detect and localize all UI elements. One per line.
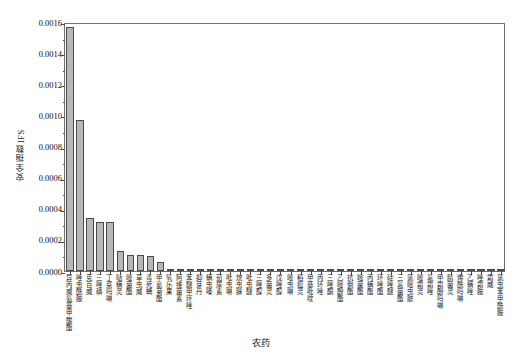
y-axis-tick — [61, 117, 65, 118]
y-axis-tick — [61, 86, 65, 87]
x-axis-tick-label: 环唑酯 — [375, 275, 385, 296]
y-axis-tick — [61, 24, 65, 25]
bar — [86, 218, 93, 271]
x-axis-tick-label: 毒死蜱 — [144, 275, 154, 296]
bar — [137, 255, 144, 271]
y-axis-tick — [61, 55, 65, 56]
x-axis-tick-label: 嘧菌酯 — [124, 275, 134, 296]
bar — [117, 251, 124, 271]
y-axis-minor-tick — [63, 71, 66, 72]
x-axis-tick-label: 丁菜吗啉 — [104, 275, 114, 303]
y-axis-tick-label: 0.0000 — [20, 268, 62, 277]
y-axis-title: 安全指数IFS — [16, 100, 32, 210]
x-axis-tick-label: 乙嘧酚酯 — [335, 275, 345, 303]
x-axis-tick-label: 嘧菌酯 — [355, 275, 365, 296]
y-axis-minor-tick — [63, 133, 66, 134]
x-axis-tick-label: 克百威 — [84, 275, 94, 296]
y-axis-tick — [61, 242, 65, 243]
y-axis-tick-label: 0.0012 — [20, 81, 62, 90]
x-axis-tick-label: 腈菌灵 — [445, 275, 455, 296]
y-axis-minor-tick — [63, 195, 66, 196]
y-axis-tick-label: 0.0014 — [20, 50, 62, 59]
x-axis-tick-label: 稻瘟灵 — [295, 275, 305, 296]
x-axis-tick-label: 霜威 — [485, 275, 495, 289]
y-axis-minor-tick — [63, 226, 66, 227]
x-axis-tick-label: 唑霜胺 — [475, 275, 485, 296]
y-axis-tick — [61, 149, 65, 150]
x-axis-tick-label: 三唑醇 — [254, 275, 264, 296]
bar-chart-figure: 0.00160.00140.00120.00100.00080.00060.00… — [0, 0, 522, 356]
bar — [96, 222, 103, 271]
plot-area — [64, 23, 505, 272]
x-axis-tick-label: 哒螨灵 — [114, 275, 124, 296]
x-axis-tick-label: 烯酰吗啉 — [455, 275, 465, 303]
x-axis-tick-label: 三唑磷 — [94, 275, 104, 296]
x-axis-tick-label: 抗倒酯 — [345, 275, 355, 296]
bar — [127, 255, 134, 271]
x-axis-tick-label: 三氟菌酯 — [395, 275, 405, 303]
bar-series — [65, 24, 504, 271]
x-axis-tick-label: 氧乐果 — [164, 275, 174, 296]
x-axis-tick-label: 吡虫醚 — [244, 275, 254, 296]
x-axis-tick-label: 氯嘧虫腙 — [405, 275, 415, 303]
y-axis-minor-tick — [63, 164, 66, 165]
y-axis-tick — [61, 180, 65, 181]
x-axis-tick-label: 苯醚甲环唑 — [184, 275, 194, 310]
bar — [147, 256, 154, 271]
x-axis-tick-label: 草虫威 — [134, 275, 144, 296]
x-axis-tick-label: 嘧霜灵 — [415, 275, 425, 296]
x-axis-tick-label: 甲霜酚吗啉 — [435, 275, 445, 310]
x-axis-tick-label: 烷虫脒 — [234, 275, 244, 296]
x-axis-tick-label: 硅唑醚 — [385, 275, 395, 296]
bar — [76, 120, 83, 271]
y-axis-tick — [61, 211, 65, 212]
x-axis-tick-labels: 异丙威氨基甲酸酯唑虫酰胺克百威三唑磷丁菜吗啉哒螨灵嘧菌酯草虫威毒死蜱甲氰菊酯氧乐… — [64, 275, 505, 333]
x-axis-tick-label: 吡虫啉 — [224, 275, 234, 296]
y-axis-minor-tick — [63, 40, 66, 41]
x-axis-title: 农药 — [0, 336, 522, 349]
y-axis-minor-tick — [63, 257, 66, 258]
x-axis-tick-label: 多菌灵 — [264, 275, 274, 296]
x-axis-tick-label: 唑虫酰胺 — [74, 275, 84, 303]
bar — [106, 222, 113, 271]
x-axis-tick-label: 丙环唑 — [315, 275, 325, 296]
y-axis-tick — [61, 273, 65, 274]
x-axis-tick-label: 乙螨唑 — [465, 275, 475, 296]
y-axis-tick-label: 0.0016 — [20, 19, 62, 28]
bar — [157, 262, 164, 271]
x-axis-tick-label: 丙螨酯 — [365, 275, 375, 296]
x-axis-tick-label: 氟霜唑 — [425, 275, 435, 296]
x-axis-tick-label: 嘧虫啉 — [285, 275, 295, 296]
y-axis-minor-tick — [63, 102, 66, 103]
x-axis-tick-label: 螨虫嗪 — [204, 275, 214, 296]
x-axis-tick-label: 甲氰菊酯 — [154, 275, 164, 303]
bar — [66, 27, 73, 271]
x-axis-tick-label: 异丙威氨基甲酸酯 — [64, 275, 74, 332]
x-axis-tick-label: 阿维菌素 — [174, 275, 184, 303]
x-axis-tick-label: 抑芽丹 — [194, 275, 204, 296]
x-axis-tick-label: 三唑酮 — [325, 275, 335, 296]
y-axis-tick-label: 0.0002 — [20, 236, 62, 245]
x-axis-tick-label: 氯虫苯甲酰胺 — [495, 275, 505, 318]
x-axis-tick-label: 茄尿素 — [214, 275, 224, 296]
x-axis-tick-label: 戊唑醇 — [274, 275, 284, 296]
x-axis-tick-label: 甲基吡啶 — [305, 275, 315, 303]
